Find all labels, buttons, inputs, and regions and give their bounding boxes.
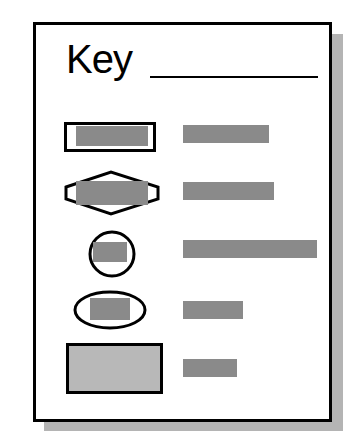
- filled-rectangle-symbol-icon: [66, 343, 164, 395]
- legend-label-placeholder: [183, 359, 237, 377]
- legend-label-placeholder: [183, 182, 274, 200]
- title-underline: [150, 76, 318, 78]
- legend-label-placeholder: [183, 301, 243, 319]
- key-panel: Key: [33, 22, 332, 422]
- hexagon-symbol-icon: [63, 169, 161, 217]
- circle-symbol-icon: [87, 229, 139, 281]
- key-title: Key: [66, 37, 132, 81]
- legend-label-placeholder: [183, 125, 269, 143]
- legend-label-placeholder: [183, 240, 317, 258]
- rectangle-symbol-icon: [64, 122, 156, 154]
- ellipse-symbol-icon: [73, 290, 149, 332]
